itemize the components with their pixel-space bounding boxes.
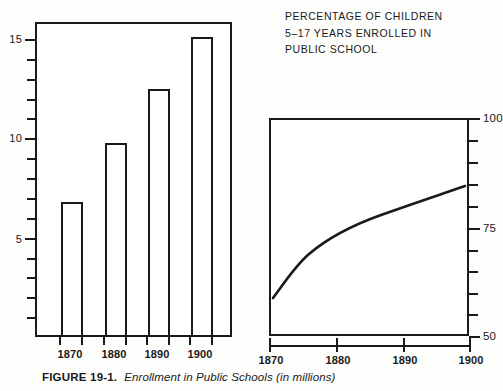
figure-number: FIGURE 19-1.: [42, 371, 117, 383]
bar-x-tick-2: [81, 337, 83, 345]
bar-y-tick-7: [27, 198, 35, 200]
line-chart: PERCENTAGE OF CHILDREN 5–17 YEARS ENROLL…: [255, 0, 503, 391]
bar-x-tick-4: [125, 337, 127, 345]
bar-x-label-1890: 1890: [135, 348, 179, 360]
line-y-tick-85: [469, 184, 478, 186]
line-y-tick-75: [469, 228, 480, 230]
line-x-label-1900: 1900: [449, 354, 493, 366]
bar-y-tick-9: [27, 158, 35, 160]
bar-y-tick-2: [27, 297, 35, 299]
bar-y-label-10: 10: [2, 133, 22, 144]
line-x-label-1880: 1880: [316, 354, 360, 366]
line-x-axis-line: [269, 345, 469, 347]
bar-plot-area: [35, 22, 232, 337]
line-y-label-50: 50: [483, 330, 496, 342]
bar-y-tick-4: [27, 258, 35, 260]
bar-y-tick-15: [25, 39, 35, 41]
line-chart-title: PERCENTAGE OF CHILDREN 5–17 YEARS ENROLL…: [285, 8, 443, 58]
bar-y-label-15: 15: [2, 34, 22, 45]
bar-1890: [148, 89, 170, 335]
bar-x-label-1870: 1870: [48, 348, 92, 360]
figure-page: 15 10 5: [0, 0, 503, 391]
bar-y-tick-12: [27, 99, 35, 101]
bar-x-tick-5: [146, 337, 148, 345]
bar-y-tick-1: [27, 317, 35, 319]
bar-y-tick-13: [27, 79, 35, 81]
bar-y-tick-11: [27, 118, 35, 120]
line-x-label-1870: 1870: [249, 354, 293, 366]
bar-x-label-1880: 1880: [92, 348, 136, 360]
line-y-label-100: 100: [483, 112, 503, 124]
bar-x-tick-7: [189, 337, 191, 345]
line-y-tick-70: [469, 250, 478, 252]
bar-y-tick-6: [27, 218, 35, 220]
line-y-tick-100: [469, 118, 480, 120]
bar-1870: [61, 202, 83, 335]
line-plot-area: [269, 118, 469, 336]
bar-1880: [105, 143, 127, 335]
line-y-tick-55: [469, 314, 478, 316]
line-x-tick-1900: [469, 338, 471, 352]
line-chart-title-line3: PUBLIC SCHOOL: [285, 41, 443, 58]
line-chart-title-line2: 5–17 YEARS ENROLLED IN: [285, 25, 443, 42]
enrollment-percentage-curve: [271, 120, 467, 334]
bar-y-tick-10: [25, 138, 35, 140]
line-chart-title-line1: PERCENTAGE OF CHILDREN: [285, 8, 443, 25]
bar-y-tick-14: [27, 59, 35, 61]
bar-1900: [191, 37, 213, 335]
line-y-tick-80: [469, 206, 478, 208]
line-x-tick-1870: [269, 338, 271, 352]
bar-x-tick-6: [168, 337, 170, 345]
bar-chart: 15 10 5: [0, 0, 250, 391]
bar-x-label-1900: 1900: [178, 348, 222, 360]
bar-y-label-5: 5: [2, 234, 22, 245]
line-y-tick-90: [469, 162, 478, 164]
line-x-tick-1880: [336, 338, 338, 352]
line-y-tick-95: [469, 140, 478, 142]
bar-x-tick-1: [59, 337, 61, 345]
line-x-tick-1890: [403, 338, 405, 352]
bar-y-tick-8: [27, 178, 35, 180]
bar-y-tick-5: [25, 238, 35, 240]
line-y-tick-60: [469, 293, 478, 295]
bar-y-tick-3: [27, 277, 35, 279]
line-y-label-75: 75: [483, 222, 496, 234]
bar-x-tick-8: [211, 337, 213, 345]
bar-x-tick-3: [103, 337, 105, 345]
line-y-tick-65: [469, 271, 478, 273]
line-x-label-1890: 1890: [383, 354, 427, 366]
